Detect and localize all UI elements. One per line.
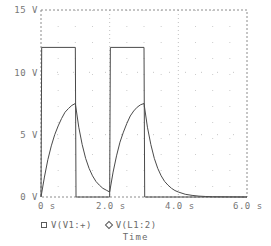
square-marker-icon: [41, 222, 47, 228]
plot-canvas: [0, 0, 271, 246]
diamond-marker-icon: [104, 221, 112, 229]
legend: V(V1:+) V(L1:2): [41, 218, 241, 232]
series-layer: [41, 47, 247, 197]
spice-plot-window: 15 V 10 V 5 V 0 V 0 s 2.0 s 4.0 s 6.0 s …: [0, 0, 271, 246]
legend-label-l1: V(L1:2): [116, 220, 157, 230]
legend-label-v1: V(V1:+): [51, 220, 92, 230]
legend-entry-l1[interactable]: V(L1:2): [106, 220, 157, 230]
legend-entry-v1[interactable]: V(V1:+): [41, 220, 92, 230]
x-axis-title: Time: [0, 232, 271, 242]
series-trace-v1: [41, 47, 247, 197]
